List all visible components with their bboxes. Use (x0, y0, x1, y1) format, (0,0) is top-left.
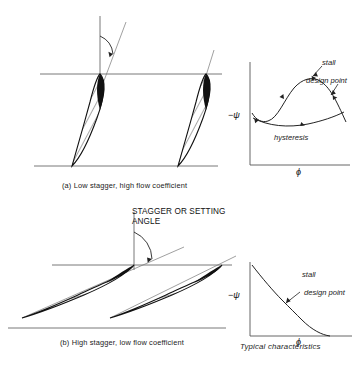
chart-b-subcaption: Typical characteristics (240, 342, 321, 351)
panel-b-chart (250, 262, 352, 336)
chart-a-design-point-annotation: design point (306, 76, 347, 85)
panel-b-blade-1 (14, 258, 144, 326)
panel-a-caption: (a) Low stagger, high flow coefficient (62, 181, 187, 190)
panel-a-blade-2 (166, 66, 226, 176)
chart-a-stall-annotation: stall (322, 58, 336, 67)
chart-a-curve-main (252, 79, 346, 122)
panel-b-cascade (8, 212, 236, 328)
chart-b-curve (252, 265, 330, 336)
panel-b-blade-2 (102, 258, 232, 326)
panel-b-caption: (b) High stagger, low flow coefficient (60, 338, 184, 347)
figure-cascade-stagger: (a) Low stagger, high flow coefficient (… (0, 0, 363, 371)
chart-b-stall-annotation: stall (302, 270, 316, 279)
chart-b-design-point-annotation: design point (304, 288, 345, 297)
chart-b-y-axis-label: −ψ (228, 290, 240, 300)
chart-a-y-axis-label: −ψ (228, 110, 240, 120)
chart-a-x-axis-label: ϕ (296, 167, 301, 177)
panel-a-blade-1 (60, 66, 120, 176)
panel-b-chord-line-1 (22, 247, 184, 318)
panel-b-stagger-angle-arc (134, 232, 152, 259)
panel-a-cascade (34, 16, 226, 176)
chart-a-curve-hysteresis (253, 112, 344, 126)
chart-a-hysteresis-annotation: hysteresis (274, 133, 308, 142)
stagger-angle-label: STAGGER OR SETTING ANGLE (132, 207, 226, 226)
chart-a-design-point-leader-arrowhead (331, 90, 336, 95)
panel-a-stagger-angle-arrowhead (108, 52, 113, 57)
chart-a-arrow-2 (280, 94, 285, 99)
panel-a-stagger-angle-arc (100, 36, 113, 54)
chart-a-arrow-5 (300, 122, 305, 126)
